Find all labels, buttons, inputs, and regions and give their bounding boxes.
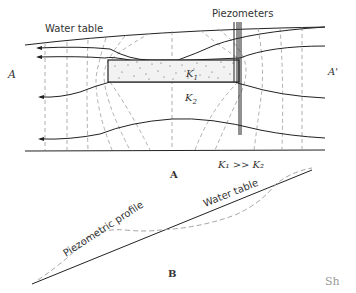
panel-a: Water table Piezometers A A' K1 K2 K₁ >>… (7, 8, 338, 180)
equipotential-lines (45, 27, 302, 150)
piezometric-profile-line (38, 168, 312, 280)
panel-b: Water table Piezometric profile B (32, 168, 312, 284)
section-a-prime-label: A' (327, 66, 338, 77)
panel-b-caption: B (168, 268, 176, 279)
panel-a-caption: A (169, 169, 178, 180)
piezometric-profile-label: Piezometric profile (61, 199, 145, 259)
k2-label: K2 (184, 92, 197, 106)
k-relation-label: K₁ >> K₂ (217, 159, 264, 170)
flow-arrowheads (36, 46, 44, 141)
section-a-label: A (7, 68, 16, 81)
diagram-canvas: Water table Piezometers A A' K1 K2 K₁ >>… (0, 0, 356, 293)
piezometers-label: Piezometers (212, 8, 273, 19)
water-table-line-b (32, 170, 312, 284)
water-table-label-b: Water table (202, 177, 260, 209)
water-table-label: Water table (45, 23, 103, 34)
signature: Sh (325, 275, 340, 288)
flow-lines (38, 27, 325, 139)
bottom-boundary (25, 150, 325, 151)
